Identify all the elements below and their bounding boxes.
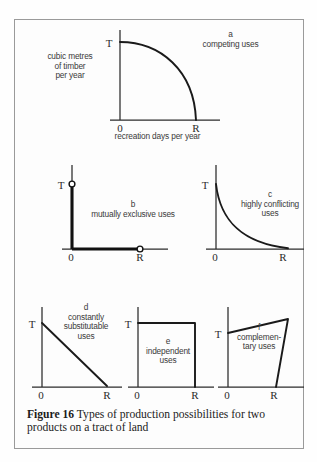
figure-caption: Figure 16 Types of production possibilit…	[27, 408, 293, 435]
panel-b-label: bmutually exclusive uses	[78, 200, 188, 219]
figure-root: T 0 R acompeting uses cubic metres of ti…	[0, 0, 317, 462]
panel-a-x-axis-title: recreation days per year	[90, 132, 225, 142]
panel-b-x-tick-R: R	[136, 251, 144, 263]
panel-c-letter: c	[268, 189, 272, 199]
panel-a-label-text: competing uses	[202, 39, 258, 49]
panel-b-open-marker-T	[69, 181, 75, 187]
panel-a-label: acompeting uses	[178, 30, 283, 49]
panel-c-y-tick-T: T	[202, 179, 209, 191]
panel-f-plot: T 0 R	[210, 305, 306, 400]
panel-a-y-axis-title: cubic metres of timber per year	[32, 52, 108, 81]
panel-d-y-tick-T: T	[29, 318, 36, 330]
panel-b-y-tick-T: T	[58, 179, 65, 191]
panel-f-letter: f	[258, 322, 260, 332]
panel-e-x-tick-R: R	[191, 389, 199, 401]
panel-d-letter: d	[84, 302, 88, 312]
panel-c-x-tick-R: R	[279, 251, 287, 263]
panel-f-y-tick-T: T	[215, 328, 222, 340]
panel-e-letter: e	[166, 336, 170, 346]
panel-b-origin-tick: 0	[68, 251, 74, 263]
panel-a-frontier-curve	[120, 42, 196, 120]
panel-f-label: fcomplemen- tary uses	[226, 323, 292, 352]
panel-e-origin-tick: 0	[134, 389, 140, 401]
panel-c-label-text: highly conflicting uses	[241, 199, 299, 219]
panel-b-letter: b	[131, 199, 135, 209]
panel-f: T 0 R	[210, 305, 306, 400]
figure-caption-number: Figure 16	[27, 408, 74, 421]
panel-f-label-text: complemen- tary uses	[237, 332, 281, 352]
panel-c-label: chighly conflicting uses	[228, 190, 312, 219]
panel-f-x-tick-R: R	[270, 389, 278, 401]
panel-a-y-tick-T: T	[106, 37, 113, 49]
panel-d-x-tick-R: R	[103, 389, 111, 401]
panel-e-label-text: independent uses	[146, 346, 190, 366]
panel-e-y-tick-T: T	[125, 318, 132, 330]
panel-d-label: dconstantly substitutable uses	[50, 303, 122, 341]
panel-e-label: eindependent uses	[137, 337, 199, 366]
panel-c-origin-tick: 0	[212, 251, 218, 263]
panel-d-origin-tick: 0	[38, 389, 44, 401]
panel-b-label-text: mutually exclusive uses	[91, 209, 175, 219]
panel-f-origin-tick: 0	[224, 389, 230, 401]
panel-d-label-text: constantly substitutable uses	[64, 312, 109, 341]
panel-a-letter: a	[228, 29, 232, 39]
